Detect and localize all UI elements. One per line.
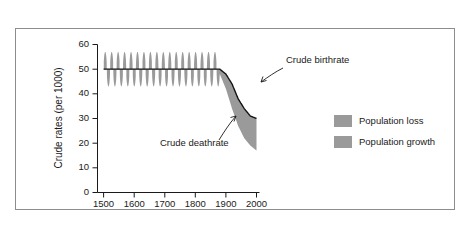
legend-item-population-growth: Population growth [334, 135, 454, 148]
legend: Population loss Population growth [334, 114, 454, 156]
legend-swatch-population-loss [334, 115, 352, 127]
legend-item-population-loss: Population loss [334, 114, 454, 127]
legend-swatch-population-growth [334, 136, 352, 148]
legend-label-population-growth: Population growth [359, 136, 435, 148]
legend-label-population-loss: Population loss [359, 115, 423, 127]
figure: 0 10 20 30 40 50 60 1500 1600 1700 1800 … [0, 0, 472, 228]
